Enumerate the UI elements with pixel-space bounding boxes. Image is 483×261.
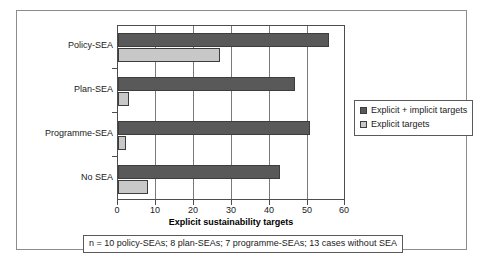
y-axis-label-policy-sea: Policy-SEA — [27, 40, 113, 51]
bar-plan-sea-total — [118, 77, 295, 91]
x-axis-tick-label-30: 30 — [218, 205, 244, 216]
bar-programme-sea-total — [118, 121, 310, 135]
footnote-text: n = 10 policy-SEAs; 8 plan-SEAs; 7 progr… — [89, 238, 397, 249]
bar-plan-sea-explicit — [118, 92, 129, 106]
y-axis: Policy-SEA Plan-SEA Programme-SEA No SEA — [25, 25, 113, 200]
bar-policy-sea-explicit — [118, 48, 220, 62]
x-axis-tick-label-20: 20 — [180, 205, 206, 216]
x-axis-tick-label-40: 40 — [256, 205, 282, 216]
x-axis-tick-label-10: 10 — [142, 205, 168, 216]
bar-group-plan-sea — [118, 70, 344, 113]
legend-item-explicit: Explicit targets — [360, 119, 467, 130]
bar-group-no-sea — [118, 158, 344, 201]
y-axis-label-programme-sea: Programme-SEA — [27, 128, 113, 139]
x-axis-title: Explicit sustainability targets — [117, 217, 345, 227]
legend-item-total: Explicit + implicit targets — [360, 105, 467, 116]
y-axis-label-plan-sea: Plan-SEA — [27, 84, 113, 95]
x-axis-tick-label-60: 60 — [331, 205, 357, 216]
bar-group-policy-sea — [118, 26, 344, 69]
legend-label-total: Explicit + implicit targets — [371, 105, 467, 116]
light-gray-swatch-icon — [360, 121, 367, 128]
y-axis-label-no-sea: No SEA — [27, 172, 113, 183]
bar-policy-sea-total — [118, 33, 329, 47]
legend: Explicit + implicit targets Explicit tar… — [354, 100, 473, 136]
figure-frame: Policy-SEA Plan-SEA Programme-SEA No SEA — [16, 10, 467, 250]
x-axis-tick-label-50: 50 — [294, 205, 320, 216]
bar-no-sea-total — [118, 165, 280, 179]
dark-gray-swatch-icon — [360, 107, 367, 114]
plot-area — [117, 25, 345, 200]
bar-group-programme-sea — [118, 114, 344, 157]
bar-no-sea-explicit — [118, 180, 148, 194]
legend-label-explicit: Explicit targets — [371, 119, 430, 130]
x-axis-tick-label-0: 0 — [104, 205, 130, 216]
bar-programme-sea-explicit — [118, 136, 126, 150]
x-axis-tick-labels: 0 10 20 30 40 50 60 — [117, 205, 345, 217]
footnote-box: n = 10 policy-SEAs; 8 plan-SEAs; 7 progr… — [83, 235, 403, 253]
